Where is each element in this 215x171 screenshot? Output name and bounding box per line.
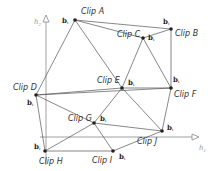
triangulation-diagram: h1h2 Clip AbiClip BbiClip CbiClip DbiCli… <box>0 0 215 171</box>
clip-point-g <box>92 121 96 125</box>
clip-point-e <box>120 86 124 90</box>
edge-G-J <box>94 123 162 131</box>
clip-point-h <box>43 149 47 153</box>
clip-label-b: Clip B <box>175 29 198 38</box>
clip-label-a: Clip A <box>81 7 104 16</box>
basis-label-e: bi <box>128 78 135 87</box>
clip-point-d <box>34 93 38 97</box>
basis-label-j: bi <box>167 123 174 132</box>
clip-point-a <box>73 18 77 22</box>
clip-point-i <box>111 149 115 153</box>
clip-label-f: Clip F <box>174 90 197 99</box>
basis-label-h: bi <box>34 142 41 151</box>
edge-D-F <box>36 88 171 95</box>
clip-point-b <box>169 27 173 31</box>
x-axis-label: h1 <box>199 144 206 153</box>
edge-E-J <box>122 88 162 131</box>
basis-label-i: bi <box>119 152 126 161</box>
clip-point-j <box>160 129 164 133</box>
edge-C-F <box>143 38 171 88</box>
clip-label-e: Clip E <box>97 76 121 85</box>
clip-label-g: Clip G <box>68 114 92 123</box>
basis-label-a: bi <box>62 16 69 25</box>
clip-label-i: Clip I <box>92 156 113 165</box>
y-axis-arrow-icon <box>43 15 49 22</box>
basis-label-d: bi <box>27 98 34 107</box>
clip-label-c: Clip C <box>117 30 141 39</box>
basis-label-f: bi <box>173 75 180 84</box>
clip-label-d: Clip D <box>13 83 37 92</box>
basis-label-g: bi <box>100 114 107 123</box>
basis-label-b: bi <box>163 17 170 26</box>
edge-E-G <box>94 88 122 123</box>
edge-A-B <box>75 20 171 29</box>
clip-point-c <box>141 36 145 40</box>
clip-label-h: Clip H <box>39 157 63 166</box>
clip-point-f <box>169 86 173 90</box>
y-axis-label: h2 <box>34 18 42 27</box>
x-axis-arrow-icon <box>192 134 199 140</box>
edge-A-D <box>36 20 75 95</box>
clip-label-j: Clip J <box>137 137 158 146</box>
